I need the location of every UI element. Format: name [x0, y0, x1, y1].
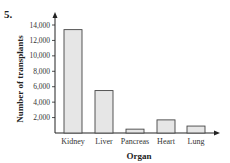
bar-heart: [157, 120, 175, 133]
x-axis-label: Organ: [126, 151, 151, 161]
bar-chart: 2,0004,0006,0008,00010,00012,00014,000 K…: [0, 0, 230, 163]
y-axis-label: Number of transplants: [15, 35, 25, 123]
bar-liver: [95, 91, 113, 133]
x-tick-label: Lung: [188, 137, 205, 146]
x-tick-label: Liver: [95, 137, 113, 146]
y-axis: 2,0004,0006,0008,00010,00012,00014,000: [29, 12, 57, 133]
bars: [64, 30, 205, 133]
y-tick-label: 12,000: [29, 36, 50, 45]
y-tick-label: 4,000: [33, 98, 50, 107]
bar-lung: [187, 126, 205, 133]
y-tick-label: 14,000: [29, 21, 50, 30]
bar-pancreas: [126, 129, 144, 133]
bar-kidney: [64, 30, 82, 133]
x-tick-label: Pancreas: [121, 137, 149, 146]
x-tick-label: Kidney: [61, 137, 85, 146]
x-tick-label: Heart: [157, 137, 176, 146]
y-tick-label: 6,000: [33, 82, 50, 91]
y-tick-label: 8,000: [33, 67, 50, 76]
y-tick-label: 2,000: [33, 113, 50, 122]
y-tick-label: 10,000: [29, 51, 50, 60]
